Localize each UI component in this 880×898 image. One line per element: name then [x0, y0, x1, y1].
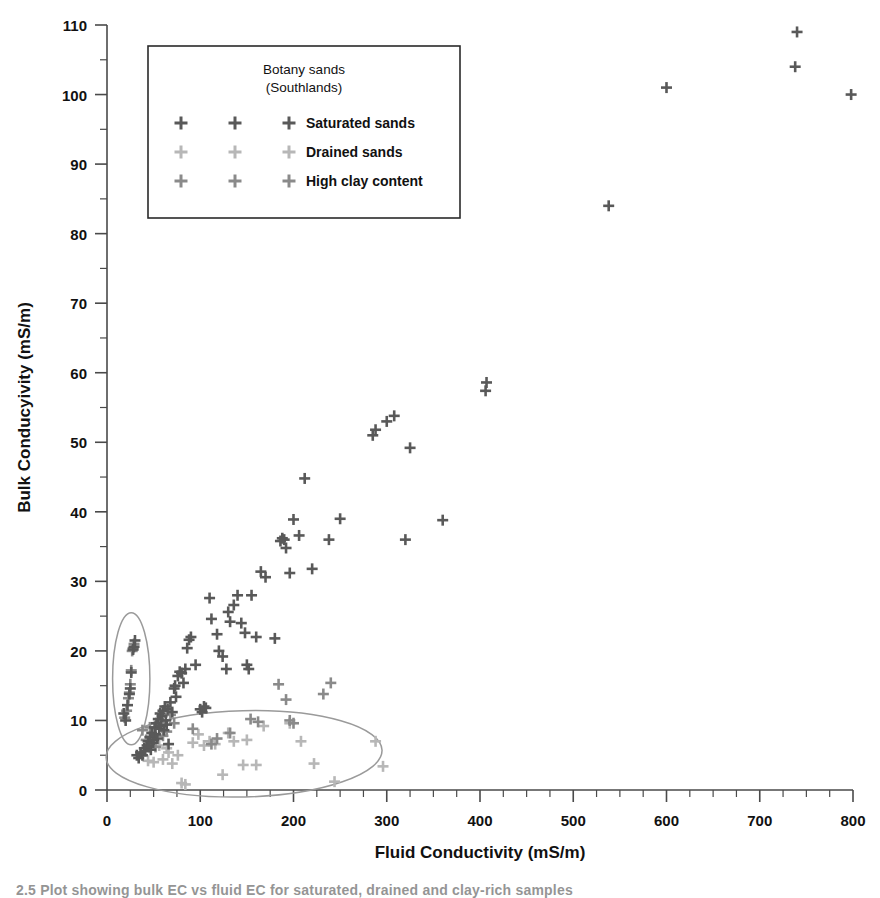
data-point-marker — [204, 593, 215, 604]
x-tick-label: 100 — [188, 812, 213, 829]
data-point-marker — [323, 534, 334, 545]
data-point-marker — [212, 629, 223, 640]
y-tick-label: 60 — [70, 365, 87, 382]
x-tick-label: 300 — [374, 812, 399, 829]
data-point-marker — [232, 590, 243, 601]
figure-caption: 2.5 Plot showing bulk EC vs fluid EC for… — [0, 882, 880, 898]
x-tick-label: 200 — [281, 812, 306, 829]
data-point-marker — [221, 663, 232, 674]
data-point-marker — [171, 691, 182, 702]
y-tick-label: 50 — [70, 434, 87, 451]
data-point-marker — [790, 61, 801, 72]
data-point-marker — [389, 410, 400, 421]
y-tick-label: 80 — [70, 226, 87, 243]
data-point-marker — [273, 679, 284, 690]
clay-cluster-ellipse — [113, 613, 150, 745]
x-tick-label: 0 — [103, 812, 111, 829]
data-point-marker — [378, 761, 389, 772]
data-point-marker — [193, 729, 204, 740]
data-point-marker — [251, 632, 262, 643]
data-point-marker — [228, 600, 239, 611]
data-point-marker — [251, 759, 262, 770]
y-tick-label: 110 — [63, 17, 87, 34]
data-point-marker — [217, 769, 228, 780]
data-point-marker — [236, 618, 247, 629]
data-point-marker — [370, 736, 381, 747]
cluster-annotations — [105, 613, 383, 801]
data-point-marker — [182, 643, 193, 654]
data-point-marker — [240, 627, 251, 638]
y-tick-label: 30 — [70, 573, 87, 590]
data-point-marker — [225, 616, 236, 627]
data-point-marker — [190, 659, 201, 670]
data-point-marker — [238, 759, 249, 770]
data-point-marker — [294, 530, 305, 541]
data-point-marker — [792, 26, 803, 37]
data-point-marker — [281, 694, 292, 705]
data-point-marker — [187, 737, 198, 748]
legend[interactable]: Botany sands(Southlands)Saturated sandsD… — [148, 46, 460, 218]
data-point-marker — [307, 563, 318, 574]
x-tick-label: 700 — [747, 812, 772, 829]
data-point-marker — [309, 758, 320, 769]
data-point-marker — [269, 633, 280, 644]
data-point-marker — [241, 734, 252, 745]
data-point-marker — [325, 677, 336, 688]
x-axis-title: Fluid Conductivity (mS/m) — [375, 843, 586, 862]
x-tick-label: 500 — [561, 812, 586, 829]
data-point-marker — [126, 667, 137, 678]
data-point-marker — [400, 534, 411, 545]
x-tick-label: 800 — [840, 812, 865, 829]
data-point-marker — [223, 606, 234, 617]
legend-title-line2: (Southlands) — [266, 80, 343, 95]
y-tick-label: 10 — [70, 712, 87, 729]
y-tick-label: 100 — [62, 87, 87, 104]
data-point-marker — [405, 442, 416, 453]
data-point-marker — [481, 377, 492, 388]
data-point-marker — [187, 723, 198, 734]
legend-label-drained: Drained sands — [306, 144, 403, 160]
data-point-marker — [206, 613, 217, 624]
data-point-marker — [284, 568, 295, 579]
data-point-marker — [846, 89, 857, 100]
y-tick-label: 20 — [70, 643, 87, 660]
legend-label-clay: High clay content — [306, 173, 423, 189]
x-tick-label: 600 — [654, 812, 679, 829]
data-point-marker — [299, 473, 310, 484]
data-point-marker — [437, 515, 448, 526]
legend-title-line1: Botany sands — [263, 62, 345, 77]
y-axis-title: Bulk Conducyivity (mS/m) — [15, 302, 34, 513]
y-tick-label: 40 — [70, 504, 87, 521]
data-point-marker — [288, 514, 299, 525]
drained-cluster-ellipse — [105, 707, 383, 800]
data-point-marker — [335, 513, 346, 524]
data-point-marker — [318, 689, 329, 700]
data-point-marker — [603, 200, 614, 211]
data-point-marker — [246, 590, 257, 601]
data-point-marker — [281, 542, 292, 553]
legend-label-saturated: Saturated sands — [306, 115, 415, 131]
y-tick-label: 90 — [70, 156, 87, 173]
y-tick-label: 0 — [79, 782, 87, 799]
data-point-marker — [661, 82, 672, 93]
data-point-marker — [381, 416, 392, 427]
data-point-marker — [295, 736, 306, 747]
x-tick-label: 400 — [467, 812, 492, 829]
y-tick-label: 70 — [70, 295, 87, 312]
